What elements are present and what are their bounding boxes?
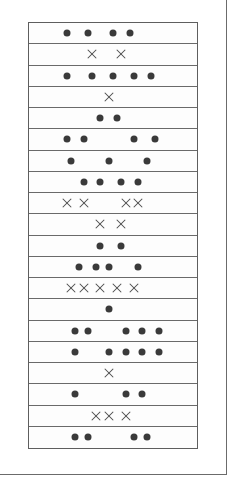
- cross-mark: [121, 198, 131, 208]
- cross-mark: [87, 49, 97, 59]
- table-row: [29, 257, 197, 278]
- table-row: [29, 87, 197, 108]
- table-row: [29, 66, 197, 87]
- dot-mark: [80, 178, 87, 185]
- dot-mark: [139, 391, 146, 398]
- dot-mark: [135, 263, 142, 270]
- table-row: [29, 406, 197, 427]
- dot-mark: [84, 327, 91, 334]
- dot-mark: [131, 72, 138, 79]
- table-row: [29, 108, 197, 129]
- cross-mark: [129, 283, 139, 293]
- dot-mark: [122, 327, 129, 334]
- dot-mark: [143, 434, 150, 441]
- dot-mark: [97, 115, 104, 122]
- dot-mark: [126, 30, 133, 37]
- table-row: [29, 363, 197, 384]
- dot-mark: [105, 263, 112, 270]
- dot-mark: [143, 157, 150, 164]
- dot-mark: [110, 72, 117, 79]
- dot-mark: [122, 348, 129, 355]
- dot-mark: [76, 263, 83, 270]
- cross-mark: [104, 411, 114, 421]
- cross-mark: [104, 92, 114, 102]
- dot-mark: [105, 348, 112, 355]
- dot-mark: [147, 72, 154, 79]
- table-row: [29, 278, 197, 299]
- dot-mark: [97, 178, 104, 185]
- table-row: [29, 299, 197, 320]
- cross-mark: [112, 283, 122, 293]
- dot-mark: [63, 136, 70, 143]
- dot-mark: [72, 391, 79, 398]
- dot-mark: [118, 242, 125, 249]
- dot-mark: [97, 242, 104, 249]
- dot-mark: [63, 72, 70, 79]
- dot-mark: [135, 178, 142, 185]
- dot-mark: [152, 136, 159, 143]
- table-row: [29, 427, 197, 448]
- cross-mark: [66, 283, 76, 293]
- dot-mark: [89, 72, 96, 79]
- table-row: [29, 214, 197, 235]
- table-row: [29, 236, 197, 257]
- table-row: [29, 44, 197, 65]
- dot-mark: [156, 327, 163, 334]
- cross-mark: [79, 198, 89, 208]
- dot-mark: [80, 136, 87, 143]
- pattern-table: [28, 22, 198, 449]
- dot-mark: [139, 327, 146, 334]
- dot-mark: [72, 327, 79, 334]
- cross-mark: [121, 411, 131, 421]
- cross-mark: [62, 198, 72, 208]
- dot-mark: [93, 263, 100, 270]
- table-row: [29, 384, 197, 405]
- cross-mark: [95, 283, 105, 293]
- cross-mark: [116, 49, 126, 59]
- table-row: [29, 151, 197, 172]
- dot-mark: [72, 348, 79, 355]
- table-row: [29, 23, 197, 44]
- dot-mark: [110, 30, 117, 37]
- dot-mark: [156, 348, 163, 355]
- table-row: [29, 342, 197, 363]
- cross-mark: [91, 411, 101, 421]
- dot-mark: [84, 434, 91, 441]
- dot-mark: [131, 136, 138, 143]
- cross-mark: [133, 198, 143, 208]
- cross-mark: [79, 283, 89, 293]
- dot-mark: [131, 434, 138, 441]
- table-row: [29, 321, 197, 342]
- table-row: [29, 193, 197, 214]
- dot-mark: [72, 434, 79, 441]
- table-row: [29, 129, 197, 150]
- dot-mark: [118, 178, 125, 185]
- dot-mark: [105, 157, 112, 164]
- cross-mark: [104, 368, 114, 378]
- dot-mark: [84, 30, 91, 37]
- dot-mark: [63, 30, 70, 37]
- dot-mark: [114, 115, 121, 122]
- cross-mark: [95, 219, 105, 229]
- cross-mark: [116, 219, 126, 229]
- dot-mark: [68, 157, 75, 164]
- dot-mark: [105, 306, 112, 313]
- dot-mark: [122, 391, 129, 398]
- dot-mark: [139, 348, 146, 355]
- table-row: [29, 172, 197, 193]
